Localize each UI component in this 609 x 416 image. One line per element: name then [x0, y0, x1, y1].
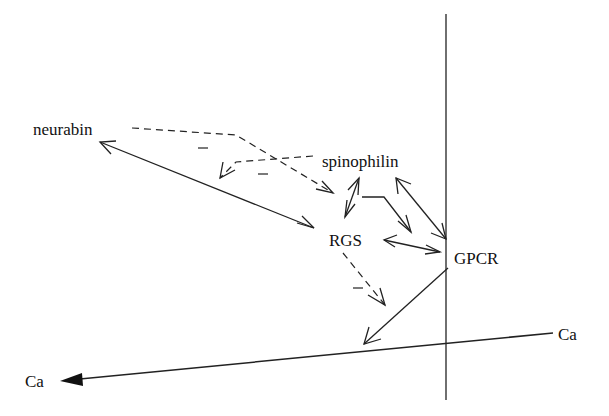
edge-spinophilin-rgs: [345, 178, 359, 217]
node-neurabin: neurabin: [33, 120, 93, 139]
node-spinophilin: spinophilin: [322, 152, 399, 171]
ca-axis-arrow: [60, 333, 553, 386]
edge-spinophilin-dashed: [220, 156, 313, 178]
edge-spinophilin-gpcr-bent: [362, 197, 411, 232]
edge-rgs-gpcr: [384, 235, 440, 254]
edge-rgs-dashed-inhibit: [343, 253, 385, 305]
node-gpcr: GPCR: [454, 249, 499, 268]
edge-spinophilin-gpcr: [396, 178, 446, 239]
node-rgs: RGS: [329, 231, 362, 250]
edge-neurabin-rgs-dashed: [132, 128, 333, 193]
pathway-diagram: neurabin spinophilin RGS GPCR Ca Ca: [0, 0, 609, 416]
node-ca-left: Ca: [25, 372, 44, 391]
edge-neurabin-rgs: [100, 141, 314, 228]
node-ca-right: Ca: [558, 325, 577, 344]
edge-gpcr-ca: [364, 268, 448, 344]
